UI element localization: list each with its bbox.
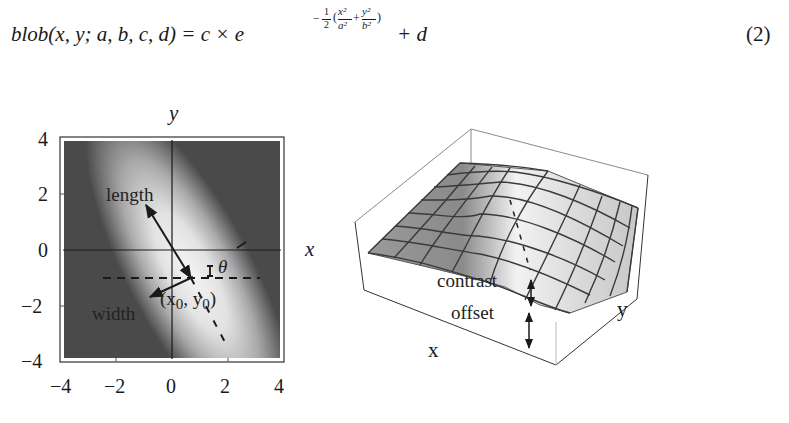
y-tick-2: 2	[38, 183, 48, 205]
x-axis-label-3d: x	[428, 338, 439, 362]
blob-3d-surface-plot: contrast offset x y	[355, 129, 648, 365]
figure: y length width θ	[0, 0, 789, 423]
surface-mesh-fill	[368, 163, 638, 313]
offset-label: offset	[451, 302, 495, 323]
theta-label: θ	[218, 256, 227, 277]
y-axis-label: y	[167, 101, 179, 125]
y-tick-neg2: −2	[21, 295, 42, 317]
length-label: length	[106, 184, 154, 205]
x-axis-label: x	[304, 237, 315, 261]
width-label: width	[92, 303, 136, 324]
x-tick-0: 0	[166, 375, 176, 397]
y-axis-label-3d: y	[617, 297, 628, 321]
y-tick-neg4: −4	[21, 350, 42, 372]
contrast-label: contrast	[437, 270, 498, 291]
y-tick-4: 4	[38, 128, 48, 150]
x-tick-4: 4	[274, 375, 284, 397]
y-tick-0: 0	[38, 239, 48, 261]
x-tick-neg2: −2	[104, 375, 125, 397]
x-tick-neg4: −4	[50, 375, 71, 397]
x-tick-2: 2	[220, 375, 230, 397]
blob-2d-plot: y length width θ	[21, 101, 315, 397]
